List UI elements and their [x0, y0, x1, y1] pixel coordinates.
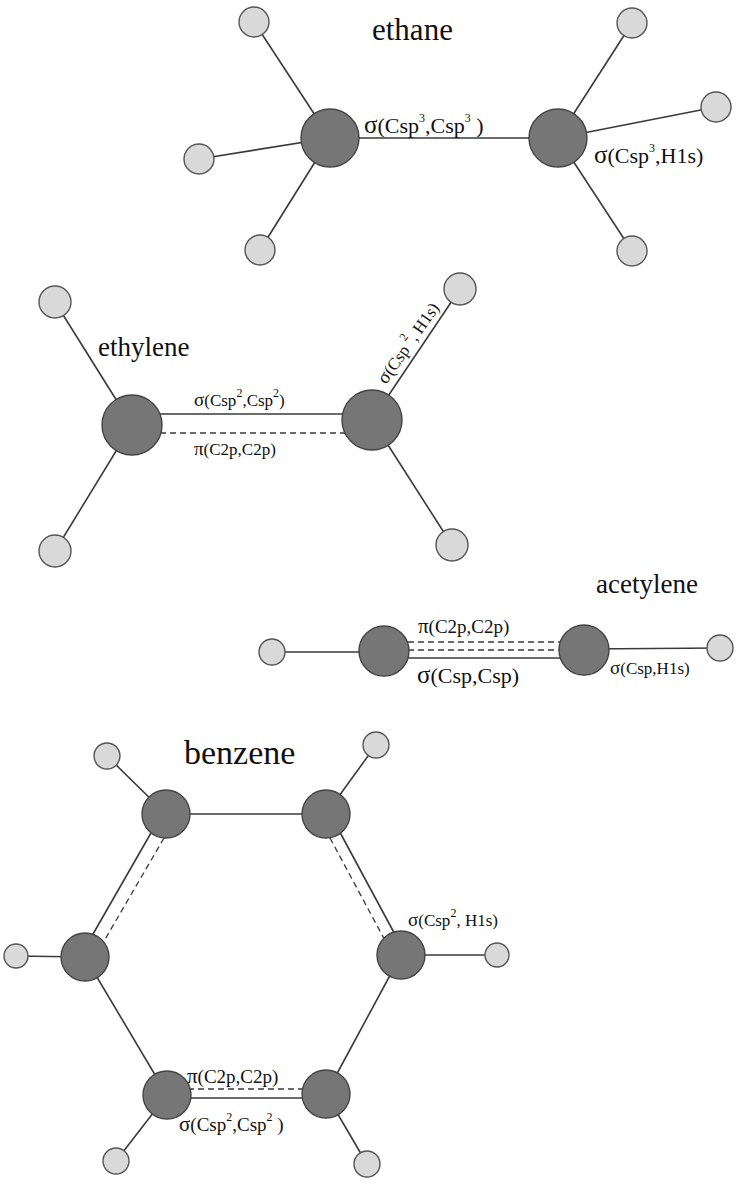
- ethylene-cc-pi-label: π(C2p,C2p): [194, 438, 276, 459]
- hydrogen-atom: [707, 635, 733, 661]
- carbon-atom: [302, 790, 350, 838]
- carbon-atom: [342, 390, 402, 450]
- acetylene-molecule: acetylene π(C2p,C2p) σ(Csp,Csp) σ(Csp,H1…: [259, 569, 733, 688]
- acetylene-cc-pi-label: π(C2p,C2p): [418, 614, 509, 638]
- hydrogen-atom: [39, 286, 71, 318]
- benzene-cc-sigma-bond: [81, 812, 163, 955]
- acetylene-cc-sigma-label: σ(Csp,Csp): [417, 661, 519, 688]
- hydrogen-atom: [354, 1151, 380, 1177]
- ethane-cc-sigma-label: σ(Csp3,Csp3 ): [364, 111, 484, 138]
- ethane-molecule: ethane σ(Csp3,Csp3 ) σ(Csp3,H1s): [184, 7, 731, 266]
- carbon-atom: [302, 1070, 350, 1118]
- carbon-atom: [301, 109, 359, 167]
- acetylene-ch-sigma-label: σ(Csp,H1s): [610, 657, 690, 678]
- ethylene-molecule: ethylene σ(Csp2,Csp2) π(C2p,C2p) σ(Csp 2…: [39, 273, 476, 567]
- ethane-ch-sigma-label: σ(Csp3,H1s): [594, 141, 703, 168]
- ethylene-ch-sigma-label: σ(Csp 2, H1s): [370, 296, 444, 387]
- acetylene-title: acetylene: [596, 569, 698, 599]
- hydrogen-atom: [363, 732, 389, 758]
- benzene-title: benzene: [184, 734, 295, 771]
- benzene-cc-pi-label: π(C2p,C2p): [187, 1064, 278, 1088]
- hydrogen-atom: [444, 273, 476, 305]
- hydrogen-atom: [103, 1148, 129, 1174]
- carbon-atom: [359, 626, 409, 676]
- hydrogen-atom: [245, 235, 275, 265]
- ethane-title: ethane: [372, 12, 453, 47]
- carbon-atom: [61, 933, 109, 981]
- hydrogen-atom: [39, 535, 71, 567]
- hydrogen-atom: [617, 236, 647, 266]
- benzene-ch-sigma-label: σ(Csp2, H1s): [408, 906, 498, 930]
- hydrogen-atom: [239, 7, 269, 37]
- benzene-molecule: benzene σ(Csp2, H1s): [4, 732, 509, 1177]
- hydrogen-atom: [617, 8, 647, 38]
- carbon-atom: [377, 931, 425, 979]
- hydrogen-atom: [436, 529, 468, 561]
- benzene-cc-sigma-label: σ(Csp2,Csp2 ): [179, 1110, 284, 1136]
- carbon-atom: [529, 109, 587, 167]
- ethylene-title: ethylene: [98, 332, 189, 362]
- hydrogen-atom: [701, 92, 731, 122]
- hydrogen-atom: [4, 944, 28, 968]
- ethylene-cc-sigma-label: σ(Csp2,Csp2): [194, 386, 285, 410]
- carbon-atom: [142, 790, 190, 838]
- carbon-atom: [559, 625, 609, 675]
- hydrogen-atom: [485, 943, 509, 967]
- hydrogen-atom: [259, 639, 285, 665]
- hydrogen-atom: [94, 743, 120, 769]
- hydrogen-atom: [184, 144, 214, 174]
- benzene-cc-pi-bond: [100, 838, 164, 948]
- hybridization-bonding-diagram: ethane σ(Csp3,Csp3 ) σ(Csp3,H1s) ethylen…: [0, 0, 740, 1194]
- carbon-atom: [102, 395, 162, 455]
- benzene-cc-pi-bond: [330, 838, 388, 946]
